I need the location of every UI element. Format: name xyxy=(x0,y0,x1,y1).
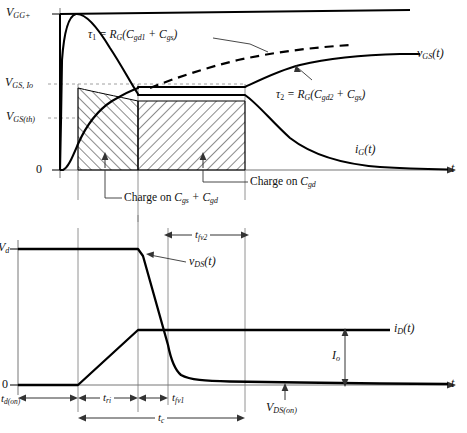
curve-label-vgs: vGS(t) xyxy=(417,46,444,61)
waveform-svg xyxy=(0,0,467,433)
tau1-leader xyxy=(213,38,268,52)
curve-label-vds: vDS(t) xyxy=(189,254,216,269)
curve-label-ig: iG(t) xyxy=(355,142,376,157)
tau1-equation: τ1 = RG(Cgd1 + Cgs) xyxy=(88,28,177,42)
axis-label-top-zero: 0 xyxy=(36,162,42,177)
marker-label-vdson: VDS(on) xyxy=(266,400,297,415)
vdson-arrow xyxy=(282,383,289,400)
bottom-panel-gridlines xyxy=(18,215,245,412)
axis-label-bottom-zero: 0 xyxy=(2,377,8,392)
tdon-dimension xyxy=(18,395,78,402)
interval-label-tfv2: tfv2 xyxy=(192,228,210,242)
interval-label-tfv1: tfv1 xyxy=(172,391,184,405)
axis-label-top-t: t xyxy=(451,161,454,176)
tfv1-dimension xyxy=(138,395,168,402)
interval-label-tc: tc xyxy=(155,411,167,425)
tau2-equation: τ2 = RG(Cgd2 + Cgs) xyxy=(276,88,365,102)
curve-vds xyxy=(18,249,448,384)
tau2-leader xyxy=(294,65,312,80)
axis-label-bottom-t: t xyxy=(451,376,454,391)
interval-label-td-on: td(on) xyxy=(1,392,20,406)
io-double-arrow xyxy=(342,328,349,387)
tau1-envelope-dashed xyxy=(150,45,352,88)
axis-label-vgs-io: VGS, Io xyxy=(5,75,33,90)
figure-canvas: VGG+ VGS, Io VGS(th) 0 t τ1 = RG(Cgd1 + … xyxy=(0,0,467,433)
vds-label-leader xyxy=(146,252,186,263)
charge-region-cgd xyxy=(138,101,245,170)
axis-label-vd: Vd xyxy=(0,240,9,255)
curve-label-id: iD(t) xyxy=(394,321,415,336)
bottom-panel-axes xyxy=(18,240,456,395)
interval-label-tri: tri xyxy=(100,391,114,405)
axis-label-vgs-th: VGS(th) xyxy=(6,109,35,124)
marker-label-io: Io xyxy=(332,348,340,363)
annotation-charge-cgs-cgd: Charge on Cgs + Cgd xyxy=(124,191,218,205)
axis-label-vgg: VGG+ xyxy=(6,5,31,20)
annotation-charge-cgd: Charge on Cgd xyxy=(250,175,316,189)
